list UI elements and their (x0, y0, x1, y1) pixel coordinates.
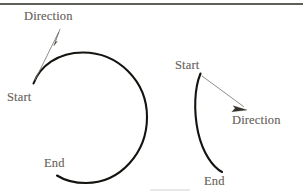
direction-label-right: Direction (232, 114, 281, 127)
direction-arrow-left-shaft (35, 33, 59, 81)
figure-canvas: Direction Start End Start Direction End (0, 0, 303, 193)
direction-arrow-left-head (54, 29, 60, 46)
direction-arrow-right-head (232, 106, 247, 112)
end-label-right: End (204, 175, 225, 188)
start-label-left: Start (7, 91, 31, 104)
direction-arrow-right-shaft (202, 76, 244, 107)
clockwise-open-arc (195, 74, 222, 173)
end-label-left: End (44, 157, 65, 170)
scan-artifact (150, 189, 190, 191)
direction-label-left: Direction (24, 10, 73, 23)
start-label-right: Start (175, 59, 199, 72)
